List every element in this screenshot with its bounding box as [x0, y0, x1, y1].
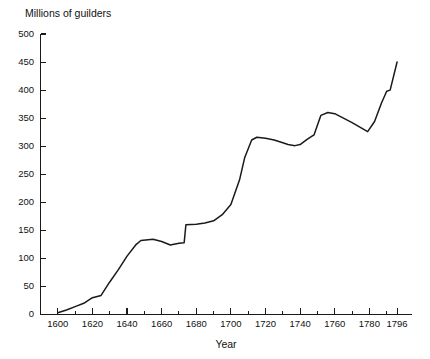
- line-chart: Millions of guilders 0501001502002503003…: [0, 0, 430, 359]
- x-tick-label: 1740: [290, 318, 311, 329]
- x-tick-label: 1720: [255, 318, 276, 329]
- x-tick-label: 1600: [47, 318, 68, 329]
- y-tick-label: 400: [18, 84, 34, 95]
- y-tick-label: 350: [18, 112, 34, 123]
- y-axis-tick-marks: [41, 34, 46, 286]
- x-tick-label: 1700: [220, 318, 241, 329]
- x-axis-title: Year: [215, 338, 237, 350]
- y-tick-label: 200: [18, 196, 34, 207]
- y-tick-label: 300: [18, 140, 34, 151]
- y-tick-label: 0: [29, 308, 34, 319]
- x-tick-label: 1760: [324, 318, 345, 329]
- x-tick-label: 1780: [359, 318, 380, 329]
- y-tick-label: 100: [18, 252, 34, 263]
- y-tick-label: 450: [18, 56, 34, 67]
- y-axis-title: Millions of guilders: [25, 7, 111, 19]
- x-tick-label: 1680: [186, 318, 207, 329]
- x-tick-label: 1796: [387, 318, 408, 329]
- x-tick-label: 1660: [151, 318, 172, 329]
- chart-container: Millions of guilders 0501001502002503003…: [0, 0, 430, 359]
- y-tick-label: 150: [18, 224, 34, 235]
- y-tick-label: 250: [18, 168, 34, 179]
- y-axis-tick-labels: 050100150200250300350400450500: [18, 28, 34, 320]
- data-series-line: [58, 62, 397, 313]
- x-axis-tick-labels: 1600162016401660168017001720174017601780…: [47, 318, 407, 329]
- x-axis-tick-marks: [58, 308, 397, 315]
- y-tick-label: 500: [18, 28, 34, 39]
- y-tick-label: 50: [23, 280, 34, 291]
- x-tick-label: 1620: [82, 318, 103, 329]
- x-tick-label: 1640: [116, 318, 137, 329]
